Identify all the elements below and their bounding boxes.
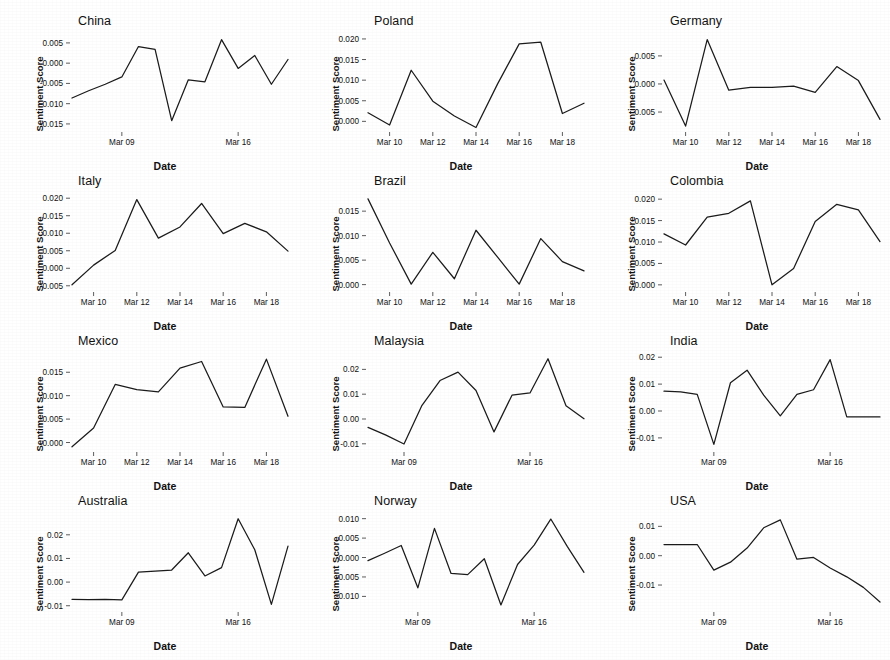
y-tick-label: -0.005 [40, 79, 64, 88]
y-tick-label: 0.005 [43, 247, 64, 256]
x-axis-label: Date [0, 320, 296, 332]
x-tick-label: Mar 16 [210, 458, 236, 467]
facet-panel: IndiaSentiment ScoreDate0.020.010.00-0.0… [592, 334, 888, 494]
y-tick-label: 0.005 [43, 39, 64, 48]
sentiment-line-series [368, 519, 584, 605]
y-tick-label: 0.010 [43, 229, 64, 238]
x-tick-label: Mar 12 [124, 458, 150, 467]
x-tick-label: Mar 14 [167, 458, 193, 467]
x-tick-label: Mar 10 [377, 298, 403, 307]
facet-panel: MexicoSentiment ScoreDate0.0150.0100.005… [0, 334, 296, 494]
x-tick-label: Mar 09 [701, 458, 727, 467]
y-tick-label: -0.010 [336, 592, 360, 601]
y-tick-label: 0.020 [43, 194, 64, 203]
x-tick-label: Mar 16 [521, 618, 547, 627]
y-tick-label: 0.000 [43, 264, 64, 273]
y-tick-label: 0.015 [635, 217, 656, 226]
y-tick-label: 0.00 [47, 578, 63, 587]
y-tick-label: 0.005 [635, 52, 656, 61]
y-tick-label: -0.005 [336, 573, 360, 582]
panel-grid: ChinaSentiment ScoreDate0.0050.000-0.005… [0, 0, 888, 640]
y-tick-label: -0.010 [40, 100, 64, 109]
sentiment-line-series [664, 201, 880, 285]
plot-area: 0.020.010.00-0.01Mar 09Mar 16 [0, 506, 296, 638]
y-tick-label: 0.005 [43, 415, 64, 424]
x-axis-label: Date [296, 480, 592, 492]
facet-panel: ItalySentiment ScoreDate0.0200.0150.0100… [0, 174, 296, 334]
x-tick-label: Mar 09 [109, 138, 135, 147]
facet-panel: MalaysiaSentiment ScoreDate0.020.010.00-… [296, 334, 592, 494]
y-tick-label: 0.010 [43, 392, 64, 401]
y-tick-label: 0.015 [43, 368, 64, 377]
y-tick-label: 0.02 [47, 531, 63, 540]
sentiment-line-series [72, 359, 288, 447]
y-tick-label: 0.000 [635, 281, 656, 290]
facet-panel: PolandSentiment ScoreDate0.0200.0150.010… [296, 14, 592, 174]
y-tick-label: 0.01 [639, 522, 655, 531]
y-tick-label: 0.000 [43, 59, 64, 68]
x-axis-label: Date [592, 480, 888, 492]
x-tick-label: Mar 16 [802, 298, 828, 307]
x-tick-label: Mar 18 [846, 298, 872, 307]
x-tick-label: Mar 18 [846, 138, 872, 147]
x-tick-label: Mar 12 [420, 138, 446, 147]
y-tick-label: -0.005 [632, 108, 656, 117]
plot-area: 0.0050.000-0.005Mar 10Mar 12Mar 14Mar 16… [592, 26, 888, 158]
y-tick-label: 0.01 [639, 380, 655, 389]
plot-area: 0.0200.0150.0100.0050.000Mar 10Mar 12Mar… [296, 26, 592, 158]
y-tick-label: 0.00 [343, 415, 359, 424]
x-tick-label: Mar 16 [225, 138, 251, 147]
y-tick-label: 0.010 [635, 238, 656, 247]
x-axis-label: Date [592, 320, 888, 332]
x-axis-label: Date [592, 640, 888, 652]
x-tick-label: Mar 10 [81, 298, 107, 307]
sentiment-line-series [72, 519, 288, 605]
sentiment-line-series [368, 42, 584, 127]
x-tick-label: Mar 10 [673, 138, 699, 147]
plot-area: 0.0050.000-0.005-0.010-0.015Mar 09Mar 16 [0, 26, 296, 158]
sentiment-line-series [368, 199, 584, 284]
y-tick-label: 0.00 [639, 552, 655, 561]
plot-area: 0.0200.0150.0100.0050.000-0.005Mar 10Mar… [0, 186, 296, 318]
x-tick-label: Mar 14 [463, 298, 489, 307]
x-tick-label: Mar 14 [759, 298, 785, 307]
x-tick-label: Mar 14 [759, 138, 785, 147]
facet-panel: NorwaySentiment ScoreDate0.0100.0050.000… [296, 494, 592, 654]
x-axis-label: Date [0, 480, 296, 492]
y-tick-label: -0.01 [636, 434, 655, 443]
x-tick-label: Mar 18 [550, 298, 576, 307]
y-tick-label: 0.020 [635, 195, 656, 204]
y-tick-label: -0.005 [40, 282, 64, 291]
y-tick-label: 0.000 [635, 80, 656, 89]
sentiment-line-series [664, 360, 880, 445]
x-tick-label: Mar 09 [109, 618, 135, 627]
x-tick-label: Mar 16 [210, 298, 236, 307]
x-tick-label: Mar 10 [81, 458, 107, 467]
facet-panel: ColombiaSentiment ScoreDate0.0200.0150.0… [592, 174, 888, 334]
x-axis-label: Date [296, 160, 592, 172]
facet-panel: BrazilSentiment ScoreDate0.0150.0100.005… [296, 174, 592, 334]
sentiment-line-series [72, 200, 288, 285]
y-tick-label: 0.02 [639, 353, 655, 362]
sentiment-score-facet-figure: ChinaSentiment ScoreDate0.0050.000-0.005… [0, 0, 890, 660]
plot-area: 0.010.00-0.01Mar 09Mar 16 [592, 506, 888, 638]
x-tick-label: Mar 10 [377, 138, 403, 147]
plot-area: 0.0100.0050.000-0.005-0.010Mar 09Mar 16 [296, 506, 592, 638]
x-tick-label: Mar 14 [463, 138, 489, 147]
x-tick-label: Mar 14 [167, 298, 193, 307]
plot-area: 0.0200.0150.0100.0050.000Mar 10Mar 12Mar… [592, 186, 888, 318]
y-tick-label: -0.015 [40, 120, 64, 129]
x-tick-label: Mar 18 [550, 138, 576, 147]
facet-panel: USASentiment ScoreDate0.010.00-0.01Mar 0… [592, 494, 888, 654]
y-tick-label: -0.01 [340, 440, 359, 449]
x-tick-label: Mar 12 [420, 298, 446, 307]
x-tick-label: Mar 18 [254, 458, 280, 467]
x-tick-label: Mar 12 [124, 298, 150, 307]
plot-area: 0.020.010.00-0.01Mar 09Mar 16 [296, 346, 592, 478]
x-tick-label: Mar 09 [391, 458, 417, 467]
y-tick-label: 0.005 [339, 534, 360, 543]
plot-area: 0.020.010.00-0.01Mar 09Mar 16 [592, 346, 888, 478]
y-tick-label: -0.01 [636, 581, 655, 590]
x-axis-label: Date [296, 320, 592, 332]
y-tick-label: 0.000 [339, 554, 360, 563]
